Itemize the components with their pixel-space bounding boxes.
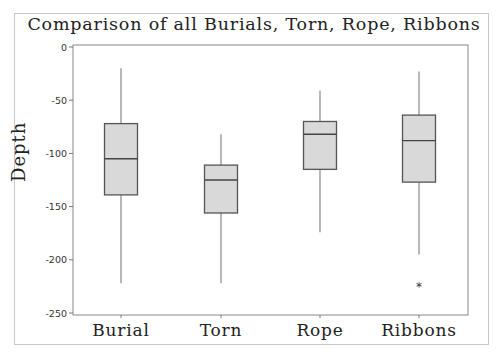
box-plot: 0-50-100-150-200-250 * BurialTornRopeRib… [0,0,500,357]
x-category-label: Torn [200,320,243,340]
y-tick-label: -100 [45,148,67,159]
box-ribbons: * [403,71,436,294]
box-burial [105,68,138,283]
y-tick-label: -200 [45,254,67,265]
y-axis: 0-50-100-150-200-250 [45,42,73,319]
y-tick-label: -150 [45,201,67,212]
iqr-box [304,121,337,169]
box-rope [304,91,337,233]
y-tick-label: -50 [51,95,67,106]
y-tick-label: 0 [61,42,67,53]
y-tick-label: -250 [45,308,67,319]
x-category-label: Burial [92,320,149,340]
box-group: * [105,68,436,294]
x-category-label: Rope [296,320,343,340]
outlier-marker: * [416,280,422,294]
iqr-box [205,165,238,213]
x-axis: BurialTornRopeRibbons [92,315,456,340]
iqr-box [403,115,436,182]
box-torn [205,134,238,283]
x-category-label: Ribbons [381,320,457,340]
